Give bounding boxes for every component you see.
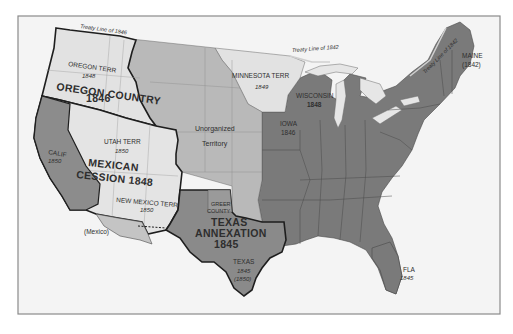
- label-utah-terr-year: 1850: [115, 148, 129, 154]
- label-texas: TEXAS: [233, 258, 255, 265]
- label-greer-county-1: GREER: [211, 201, 231, 207]
- label-texas-year: 1845: [237, 268, 251, 274]
- label-oregon-terr-year: 1848: [82, 73, 96, 79]
- label-minnesota-terr: MINNESOTA TERR: [232, 72, 289, 79]
- label-calif-year: 1850: [48, 158, 62, 164]
- label-utah-terr: UTAH TERR: [104, 138, 141, 145]
- label-new-mexico-terr-year: 1850: [140, 207, 154, 213]
- label-maine: MAINE: [462, 52, 483, 59]
- label-greer-county-2: COUNTY: [207, 208, 231, 214]
- label-oregon-country-year: 1846: [86, 92, 111, 104]
- label-texas-annexation-3: 1845: [214, 238, 239, 250]
- historical-map: Treaty Line of 1846 Treaty Line of 1842 …: [0, 0, 513, 334]
- label-iowa-year: 1846: [281, 129, 296, 136]
- label-mexico: (Mexico): [84, 228, 109, 236]
- label-fla: FLA: [403, 266, 416, 273]
- label-territory: Territory: [202, 140, 228, 148]
- label-wisconsin: WISCONSIN: [296, 92, 334, 99]
- label-fla-year: 1845: [400, 275, 414, 281]
- label-minnesota-terr-year: 1849: [255, 84, 269, 90]
- label-wisconsin-year: 1848: [307, 101, 322, 108]
- label-unorganized: Unorganized: [195, 125, 235, 133]
- label-texas-year-2: (1850): [234, 276, 251, 282]
- label-iowa: IOWA: [280, 120, 298, 127]
- label-maine-year: (1842): [462, 61, 481, 69]
